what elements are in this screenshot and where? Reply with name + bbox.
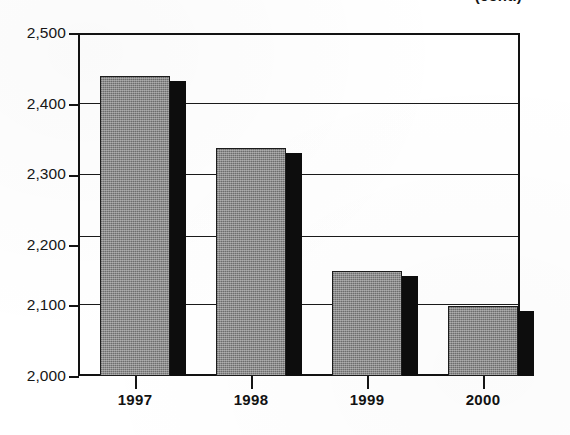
bar-series (78, 33, 520, 376)
chart-title-clipped: (cont.) (0, 0, 570, 5)
bar-2000 (448, 306, 532, 376)
bar-1999 (332, 271, 416, 376)
x-axis-tick (251, 376, 253, 389)
y-axis-label: 2,100 (4, 296, 66, 314)
x-axis-tick (135, 376, 137, 389)
bar-1998 (216, 148, 300, 376)
bar-face-1998 (216, 148, 286, 376)
y-axis-label: 2,500 (4, 24, 66, 42)
chart-title-text: (cont.) (475, 0, 522, 4)
y-axis-labels: 2,500 2,400 2,300 2,200 2,100 2,000 (0, 0, 66, 435)
bar-1997 (100, 76, 184, 376)
bar-shadow-1997 (169, 81, 186, 376)
x-axis-tick (483, 376, 485, 389)
bar-shadow-2000 (517, 311, 534, 376)
y-axis-label: 2,300 (4, 165, 66, 183)
x-axis-label-1997: 1997 (95, 391, 175, 408)
bar-shadow-1999 (401, 276, 418, 376)
x-axis-label-2000: 2000 (443, 391, 523, 408)
x-axis-label-1999: 1999 (327, 391, 407, 408)
x-axis-label-1998: 1998 (211, 391, 291, 408)
x-axis-tick (367, 376, 369, 389)
bar-chart: (cont.) 2,500 2,400 2,300 2,200 2,100 2,… (0, 0, 570, 435)
bar-face-1999 (332, 271, 402, 376)
x-axis-labels: 1997 1998 1999 2000 (78, 391, 520, 421)
bar-shadow-1998 (285, 153, 302, 376)
x-axis-ticks (78, 376, 520, 392)
y-axis-label: 2,200 (4, 236, 66, 254)
y-axis-label: 2,400 (4, 95, 66, 113)
y-axis-label: 2,000 (4, 367, 66, 385)
bar-face-1997 (100, 76, 170, 376)
bar-face-2000 (448, 306, 518, 376)
